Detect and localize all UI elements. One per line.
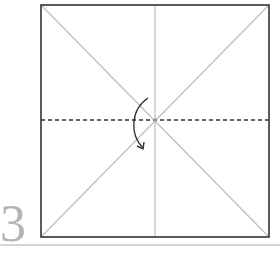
center-point <box>153 118 157 122</box>
origami-diagram <box>0 0 280 255</box>
fold-arrow-icon <box>134 98 148 149</box>
step-number: 3 <box>0 198 26 250</box>
bottom-divider <box>0 244 280 246</box>
paper-square <box>41 5 269 237</box>
